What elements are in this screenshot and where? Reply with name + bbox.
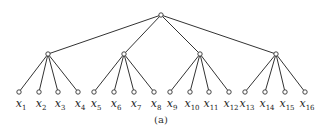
leaf-label: x7 <box>131 98 142 114</box>
leaf-node <box>263 90 267 94</box>
leaf-node <box>76 90 80 94</box>
caption: (a) <box>154 114 168 125</box>
internal-node <box>198 52 202 56</box>
leaf-node <box>227 90 231 94</box>
leaf-node <box>243 90 247 94</box>
leaf-label: x11 <box>203 98 218 114</box>
leaf-node <box>37 90 41 94</box>
leaf-node <box>112 90 116 94</box>
leaf-label: x15 <box>279 98 294 114</box>
leaf-node <box>56 90 60 94</box>
leaf-label: x6 <box>111 98 122 114</box>
leaf-node <box>207 90 211 94</box>
edge <box>48 15 161 54</box>
edge <box>124 15 161 54</box>
leaf-label: x1 <box>16 98 27 114</box>
leaf-label: x3 <box>55 98 66 114</box>
tree-diagram: x1x2x3x4x5x6x7x8x9x10x11x12x13x14x15x16 … <box>0 0 323 132</box>
leaf-label: x12 <box>223 98 238 114</box>
leaf-node <box>283 90 287 94</box>
internal-node <box>46 52 50 56</box>
edge <box>161 15 276 54</box>
leaf-label: x13 <box>239 98 254 114</box>
edge <box>265 54 276 92</box>
leaf-node <box>17 90 21 94</box>
leaf-label: x4 <box>75 98 86 114</box>
internal-node <box>122 52 126 56</box>
leaf-node <box>303 90 307 94</box>
leaf-label: x14 <box>259 98 274 114</box>
leaf-label: x16 <box>299 98 314 114</box>
leaf-node <box>152 90 156 94</box>
leaf-node <box>132 90 136 94</box>
leaf-node <box>188 90 192 94</box>
leaf-label: x10 <box>184 98 199 114</box>
edge <box>161 15 200 54</box>
root-node <box>159 13 163 17</box>
leaf-label: x2 <box>36 98 47 114</box>
edge <box>245 54 276 92</box>
leaf-label: x9 <box>167 98 178 114</box>
leaf-label: x5 <box>91 98 102 114</box>
leaf-node <box>168 90 172 94</box>
leaf-label: x8 <box>151 98 162 114</box>
internal-node <box>274 52 278 56</box>
leaf-node <box>92 90 96 94</box>
